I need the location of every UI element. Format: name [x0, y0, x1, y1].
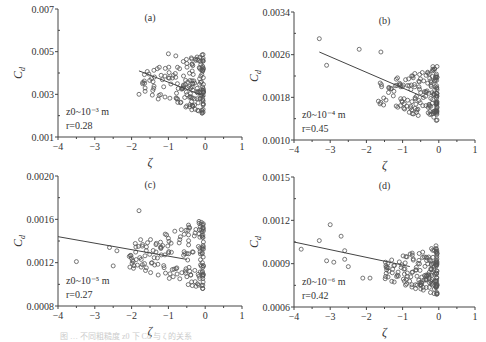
- y-tick-label: 0.0026: [263, 49, 291, 60]
- x-tick-label: 1: [240, 310, 245, 321]
- y-tick-label: 0.0008: [27, 301, 55, 312]
- chart-panel-a: −4−3−2−1010.0010.0030.0050.007ζCd(a)z0~1…: [11, 4, 245, 170]
- regression-line: [294, 242, 410, 267]
- x-tick-label: 1: [473, 311, 478, 322]
- y-tick-label: 0.0015: [263, 172, 291, 183]
- panel-label: (b): [379, 15, 391, 27]
- x-tick-label: −3: [325, 144, 336, 155]
- roughness-annotation: z0~10⁻⁴ m: [302, 109, 346, 120]
- x-tick-label: −3: [89, 141, 100, 152]
- y-tick-label: 0.0009: [263, 258, 291, 269]
- y-tick-label: 0.0012: [263, 215, 291, 226]
- chart-panel-c: −4−3−2−1010.00080.00120.00160.0020ζCd(c)…: [11, 171, 245, 339]
- x-tick-label: −2: [126, 141, 137, 152]
- y-tick-label: 0.001: [32, 132, 55, 143]
- x-tick-label: −3: [89, 310, 100, 321]
- x-tick-label: −2: [361, 311, 372, 322]
- correlation-annotation: r=0.27: [66, 289, 92, 300]
- roughness-annotation: z0~10⁻³ m: [66, 106, 109, 117]
- figure-canvas: −4−3−2−1010.0010.0030.0050.007ζCd(a)z0~1…: [0, 0, 486, 342]
- y-axis-label: Cd: [11, 234, 27, 247]
- y-axis-label: Cd: [247, 69, 263, 82]
- y-tick-label: 0.0012: [27, 257, 55, 268]
- y-axis-label: Cd: [11, 66, 27, 79]
- y-tick-label: 0.0010: [263, 135, 291, 146]
- regression-line: [319, 52, 424, 97]
- x-tick-label: −1: [397, 144, 408, 155]
- panel-label: (a): [144, 12, 155, 24]
- correlation-annotation: r=0.42: [302, 290, 328, 301]
- y-tick-label: 0.005: [32, 46, 55, 57]
- x-tick-label: 1: [473, 144, 478, 155]
- correlation-annotation: r=0.45: [302, 123, 328, 134]
- x-axis-label: ζ: [148, 155, 154, 169]
- x-tick-label: 0: [436, 311, 441, 322]
- x-tick-label: −2: [361, 144, 372, 155]
- y-tick-label: 0.0034: [263, 7, 291, 18]
- x-tick-label: −1: [163, 141, 174, 152]
- y-tick-label: 0.003: [32, 89, 55, 100]
- figure-caption: 图 … 不同粗糙度 z0 下 Cd 与 ζ 的关系: [60, 330, 192, 341]
- chart-panel-b: −4−3−2−1010.00100.00180.00260.0034ζCd(b)…: [247, 7, 478, 173]
- y-tick-label: 0.0006: [263, 302, 291, 313]
- x-axis-label: ζ: [382, 325, 388, 339]
- x-tick-label: −4: [53, 310, 64, 321]
- panel-label: (c): [144, 179, 155, 191]
- x-tick-label: −4: [289, 311, 300, 322]
- y-tick-label: 0.0020: [27, 171, 55, 182]
- x-tick-label: −4: [53, 141, 64, 152]
- x-tick-label: −4: [289, 144, 300, 155]
- x-tick-label: −2: [126, 310, 137, 321]
- y-tick-label: 0.0018: [263, 92, 291, 103]
- correlation-annotation: r=0.28: [66, 120, 92, 131]
- x-tick-label: −3: [325, 311, 336, 322]
- chart-panel-d: −4−3−2−1010.00060.00090.00120.0015ζCd(d)…: [247, 172, 478, 340]
- x-tick-label: 1: [240, 141, 245, 152]
- x-tick-label: 0: [203, 310, 208, 321]
- x-tick-label: 0: [203, 141, 208, 152]
- x-axis-label: ζ: [382, 158, 388, 172]
- roughness-annotation: z0~10⁻⁵ m: [66, 275, 110, 286]
- x-tick-label: 0: [436, 144, 441, 155]
- y-tick-label: 0.0016: [27, 214, 55, 225]
- y-axis-label: Cd: [247, 235, 263, 248]
- x-tick-label: −1: [397, 311, 408, 322]
- roughness-annotation: z0~10⁻⁶ m: [302, 276, 346, 287]
- panel-label: (d): [379, 180, 391, 192]
- y-tick-label: 0.007: [32, 4, 55, 15]
- x-tick-label: −1: [163, 310, 174, 321]
